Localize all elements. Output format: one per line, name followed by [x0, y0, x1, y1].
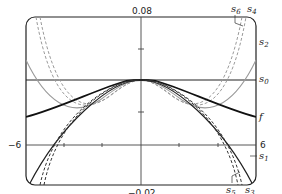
taylor-approximation-plot: 0.08 −0.02 −6 6 s6 s4 s2 s0 f s1 s5 s3: [0, 0, 282, 194]
svg-text:s0: s0: [259, 73, 269, 86]
svg-text:s6: s6: [231, 3, 241, 16]
series-label-s0: s0: [259, 73, 269, 86]
y-top-label: 0.08: [132, 6, 152, 16]
svg-text:s1: s1: [259, 150, 269, 163]
svg-text:s2: s2: [259, 36, 269, 49]
series-label-f: f: [258, 111, 265, 122]
series-label-s5: s5: [226, 172, 240, 194]
svg-text:f: f: [258, 111, 265, 122]
series-label-s4: s4: [247, 3, 257, 16]
svg-text:s3: s3: [245, 184, 255, 194]
x-left-label: −6: [8, 140, 22, 150]
svg-text:s4: s4: [247, 3, 257, 16]
x-right-label: 6: [260, 140, 266, 150]
series-label-s1: s1: [250, 150, 269, 163]
series-label-s2: s2: [259, 36, 269, 49]
series-label-s3: s3: [245, 184, 255, 194]
y-bottom-label: −0.02: [128, 188, 156, 194]
